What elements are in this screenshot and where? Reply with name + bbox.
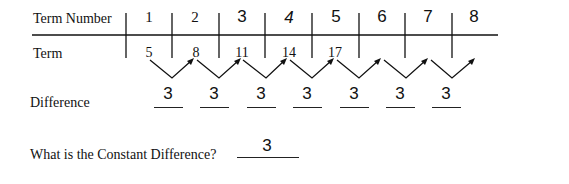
difference-value-5: 3 xyxy=(339,84,369,104)
difference-value-4: 3 xyxy=(292,84,322,104)
difference-blank-5[interactable] xyxy=(340,107,369,108)
difference-value-3: 3 xyxy=(246,84,276,104)
difference-blank-1[interactable] xyxy=(154,107,183,108)
difference-value-1: 3 xyxy=(153,84,183,104)
difference-value-2: 3 xyxy=(199,84,229,104)
difference-label: Difference xyxy=(30,95,90,111)
term-number-7: 7 xyxy=(413,7,443,27)
difference-blank-3[interactable] xyxy=(247,107,276,108)
difference-blank-4[interactable] xyxy=(293,107,322,108)
term-number-8: 8 xyxy=(459,7,489,27)
term-value-4: 14 xyxy=(277,45,301,61)
difference-value-7: 3 xyxy=(431,84,461,104)
difference-blank-2[interactable] xyxy=(200,107,229,108)
difference-value-6: 3 xyxy=(385,84,415,104)
term-number-2: 2 xyxy=(180,9,210,26)
constant-difference-blank[interactable] xyxy=(237,157,299,158)
constant-difference-answer: 3 xyxy=(252,136,282,156)
constant-difference-question: What is the Constant Difference? xyxy=(30,147,216,163)
term-value-2: 8 xyxy=(184,45,208,61)
difference-blank-6[interactable] xyxy=(386,107,415,108)
term-value-1: 5 xyxy=(137,45,161,61)
term-number-1: 1 xyxy=(134,9,164,26)
difference-blank-7[interactable] xyxy=(432,107,461,108)
term-value-5: 17 xyxy=(323,45,347,61)
term-number-4: 4 xyxy=(274,8,304,28)
term-value-3: 11 xyxy=(230,45,254,61)
term-number-3: 3 xyxy=(227,7,257,27)
term-number-5: 5 xyxy=(321,7,351,27)
term-number-6: 6 xyxy=(367,7,397,27)
